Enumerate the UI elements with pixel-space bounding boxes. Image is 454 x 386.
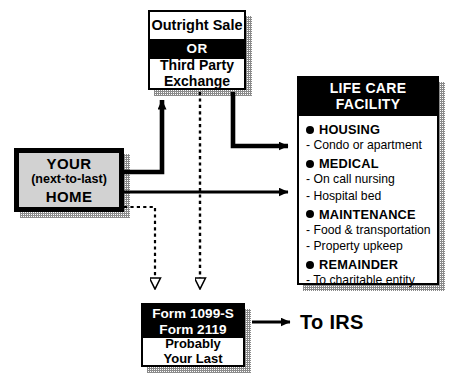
diagram-canvas: Outright Sale OR Third Party Exchange YO… bbox=[0, 0, 454, 386]
facility-detail-maintenance-1: - Property upkeep bbox=[306, 239, 433, 254]
form-note-line-2: Your Last bbox=[164, 352, 223, 367]
third-party-exchange-line-2: Exchange bbox=[164, 74, 230, 90]
tax-form-note: Probably Your Last bbox=[143, 338, 243, 365]
form-1099s-label: Form 1099-S bbox=[152, 306, 234, 321]
connector-sale-to-facility bbox=[233, 92, 288, 146]
tax-form-box[interactable]: Form 1099-S Form 2119 Probably Your Last bbox=[141, 303, 245, 367]
to-irs-label: To IRS bbox=[300, 311, 364, 334]
facility-detail-remainder-0: - To charitable entity bbox=[306, 273, 433, 288]
outright-sale-label: Outright Sale bbox=[150, 12, 244, 39]
facility-item-maintenance: MAINTENANCE bbox=[306, 207, 433, 222]
facility-detail-medical-1: - Hospital bed bbox=[306, 189, 433, 204]
facility-title: LIFE CARE FACILITY bbox=[299, 78, 437, 116]
tax-form-header: Form 1099-S Form 2119 bbox=[143, 305, 243, 338]
facility-detail-medical-0: - On call nursing bbox=[306, 172, 433, 187]
third-party-exchange-label: Third Party Exchange bbox=[150, 59, 244, 88]
sale-option-box[interactable]: Outright Sale OR Third Party Exchange bbox=[148, 10, 246, 90]
bullet-icon bbox=[306, 126, 314, 134]
bullet-icon bbox=[306, 210, 314, 218]
facility-item-list: HOUSING - Condo or apartment MEDICAL - O… bbox=[299, 116, 437, 283]
facility-item-housing-label: HOUSING bbox=[319, 122, 380, 137]
home-line-3: HOME bbox=[46, 188, 93, 205]
home-line-1: YOUR bbox=[47, 155, 92, 172]
your-home-box[interactable]: YOUR (next-to-last) HOME bbox=[14, 148, 124, 212]
life-care-facility-box[interactable]: LIFE CARE FACILITY HOUSING - Condo or ap… bbox=[297, 76, 439, 285]
facility-item-maintenance-label: MAINTENANCE bbox=[319, 207, 416, 222]
connector-home-to-form bbox=[124, 207, 155, 289]
third-party-exchange-line-1: Third Party bbox=[160, 58, 234, 74]
facility-detail-maintenance-0: - Food & transportation bbox=[306, 223, 433, 238]
facility-title-line-2: FACILITY bbox=[336, 97, 401, 113]
or-divider-label: OR bbox=[150, 39, 244, 59]
facility-item-housing: HOUSING bbox=[306, 122, 433, 137]
facility-item-remainder: REMAINDER bbox=[306, 257, 433, 272]
form-note-line-1: Probably bbox=[165, 337, 221, 352]
your-home-content: YOUR (next-to-last) HOME bbox=[19, 153, 119, 207]
facility-item-medical-label: MEDICAL bbox=[319, 156, 379, 171]
bullet-icon bbox=[306, 160, 314, 168]
home-line-2: (next-to-last) bbox=[31, 172, 107, 188]
bullet-icon bbox=[306, 261, 314, 269]
form-2119-label: Form 2119 bbox=[159, 322, 226, 337]
facility-detail-housing-0: - Condo or apartment bbox=[306, 138, 433, 153]
facility-item-remainder-label: REMAINDER bbox=[319, 257, 398, 272]
facility-title-line-1: LIFE CARE bbox=[330, 81, 407, 97]
facility-item-medical: MEDICAL bbox=[306, 156, 433, 171]
